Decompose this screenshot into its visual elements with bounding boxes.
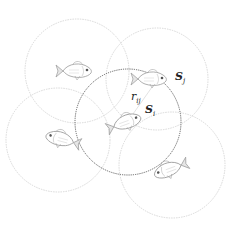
diagram-canvas [0,0,233,233]
fish-top-left-icon [56,61,91,80]
fish-sj-icon [131,69,166,88]
label-sj-sub: j [183,77,185,85]
label-si-base: S [145,103,153,116]
label-sj-base: S [175,70,183,83]
fish-left-icon [44,126,83,153]
label-rij: rij [131,91,141,105]
fish-neighborhood-diagram: Sj rij Si [0,0,233,233]
label-si: Si [145,104,155,118]
label-sj: Sj [175,71,185,85]
label-si-sub: i [153,110,155,118]
fish-bottom-right-icon [151,154,191,184]
fish-si-icon [104,108,144,138]
label-rij-sub: ij [136,97,140,105]
